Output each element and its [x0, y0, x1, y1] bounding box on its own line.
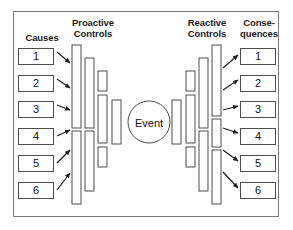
- reactive-control-bar-7[interactable]: [212, 45, 221, 116]
- consequence-box-label-6: 6: [255, 185, 261, 196]
- cause-box-5[interactable]: 5: [18, 155, 54, 172]
- cause-box-label-3: 3: [33, 104, 39, 115]
- reactive-controls-group: [172, 45, 221, 204]
- bowtie-diagram-canvas: Causes Proactive Controls Reactive Contr…: [0, 0, 293, 230]
- consequence-arrow-1: [223, 55, 238, 68]
- event-label: Event: [135, 117, 163, 129]
- reactive-control-bar-5[interactable]: [199, 58, 208, 128]
- consequence-box-label-1: 1: [255, 51, 261, 62]
- proactive-control-bar-6[interactable]: [98, 95, 107, 143]
- consequence-box-5[interactable]: 5: [240, 155, 276, 172]
- reactive-control-bar-2[interactable]: [186, 71, 195, 91]
- consequence-box-3[interactable]: 3: [240, 101, 276, 118]
- consequence-box-label-5: 5: [255, 158, 261, 169]
- consequence-box-label-3: 3: [255, 104, 261, 115]
- consequence-box-1[interactable]: 1: [240, 48, 276, 65]
- cause-box-6[interactable]: 6: [18, 182, 54, 199]
- proactive-control-bar-3[interactable]: [85, 58, 94, 128]
- consequence-arrow-6: [223, 172, 238, 188]
- cause-box-2[interactable]: 2: [18, 75, 54, 92]
- proactive-control-bar-8[interactable]: [112, 100, 121, 144]
- reactive-control-bar-9[interactable]: [212, 150, 221, 204]
- reactive-control-bar-4[interactable]: [186, 147, 195, 167]
- proactive-control-bar-2[interactable]: [72, 131, 81, 204]
- consequence-box-label-4: 4: [255, 131, 261, 142]
- consequence-arrow-3: [223, 106, 238, 110]
- cause-box-4[interactable]: 4: [18, 128, 54, 145]
- cause-arrow-2: [57, 79, 70, 88]
- cause-arrow-6: [57, 173, 70, 190]
- proactive-control-bar-7[interactable]: [98, 147, 107, 167]
- proactive-controls-group: [72, 45, 121, 204]
- reactive-control-bar-1[interactable]: [172, 100, 181, 144]
- cause-arrow-4: [57, 130, 70, 136]
- proactive-control-bar-1[interactable]: [72, 45, 81, 128]
- cause-arrows-group: [57, 52, 70, 190]
- cause-box-label-4: 4: [33, 131, 39, 142]
- cause-arrow-1: [57, 52, 70, 63]
- cause-arrow-5: [57, 150, 70, 163]
- consequence-arrow-2: [223, 80, 238, 90]
- cause-box-label-6: 6: [33, 185, 39, 196]
- consequence-box-4[interactable]: 4: [240, 128, 276, 145]
- consequence-box-2[interactable]: 2: [240, 75, 276, 92]
- cause-box-3[interactable]: 3: [18, 101, 54, 118]
- reactive-control-bar-3[interactable]: [186, 95, 195, 143]
- proactive-control-bar-4[interactable]: [85, 131, 94, 191]
- reactive-control-bar-6[interactable]: [199, 131, 208, 191]
- consequence-box-label-2: 2: [255, 78, 261, 89]
- consequence-arrow-4: [223, 128, 238, 133]
- cause-box-label-5: 5: [33, 158, 39, 169]
- event-node-group: Event: [128, 101, 170, 143]
- reactive-control-bar-8[interactable]: [212, 119, 221, 147]
- consequence-arrows-group: [223, 55, 238, 188]
- proactive-control-bar-5[interactable]: [98, 71, 107, 91]
- cause-arrow-3: [57, 105, 70, 110]
- cause-box-label-1: 1: [33, 51, 39, 62]
- cause-box-label-2: 2: [33, 78, 39, 89]
- consequence-arrow-5: [223, 150, 238, 161]
- consequence-box-6[interactable]: 6: [240, 182, 276, 199]
- cause-box-1[interactable]: 1: [18, 48, 54, 65]
